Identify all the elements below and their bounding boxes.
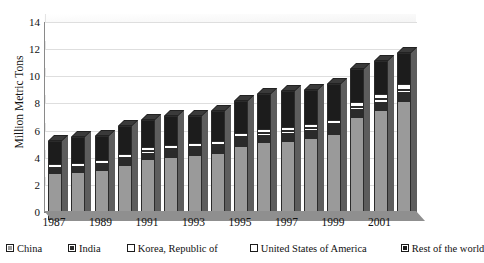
legend-item-row[interactable]: Rest of the world <box>401 243 484 254</box>
segment-india-1990 <box>118 160 132 166</box>
segment-korea-1995 <box>234 137 248 139</box>
segment-row-1989 <box>95 136 109 160</box>
bar-1991[interactable] <box>141 120 155 220</box>
segment-usa-1992 <box>164 145 178 149</box>
segment-china-1999 <box>327 135 341 221</box>
bar-2002[interactable] <box>397 53 411 220</box>
x-axis-tick-labels: 19871989199119931995199719992001 <box>44 214 436 230</box>
bar-1989[interactable] <box>95 136 109 220</box>
segment-korea-2001 <box>374 99 388 102</box>
segment-korea-1999 <box>327 124 341 127</box>
segment-korea-2002 <box>397 90 411 93</box>
segment-usa-2001 <box>374 94 388 99</box>
bar-1994[interactable] <box>211 111 225 220</box>
bar-2001[interactable] <box>374 61 388 220</box>
segment-usa-1996 <box>257 129 271 133</box>
legend-swatch-korea <box>127 244 135 252</box>
bar-side-1987 <box>62 135 68 217</box>
segment-china-1997 <box>281 142 295 220</box>
bar-1987[interactable] <box>48 141 62 220</box>
segment-row-1996 <box>257 94 271 129</box>
legend-item-usa[interactable]: United States of America <box>250 243 367 254</box>
segment-china-1993 <box>188 156 202 220</box>
x-tick-1991: 1991 <box>127 214 167 230</box>
segment-usa-1998 <box>304 124 318 128</box>
segment-india-1993 <box>188 149 202 156</box>
segment-india-1997 <box>281 134 295 142</box>
segment-row-1997 <box>281 91 295 127</box>
segment-usa-1993 <box>188 143 202 147</box>
bar-side-2001 <box>388 55 394 217</box>
y-tick-8: 8 <box>35 98 41 109</box>
y-axis-tick-labels: 02468101214 <box>0 14 40 220</box>
bar-side-1989 <box>109 130 115 217</box>
segment-usa-1997 <box>281 127 295 131</box>
bar-side-1990 <box>132 120 138 217</box>
legend-label-india: India <box>79 243 101 254</box>
bar-1999[interactable] <box>327 84 341 220</box>
segment-row-1993 <box>188 116 202 142</box>
segment-usa-1991 <box>141 147 155 151</box>
legend-label-korea: Korea, Republic of <box>138 243 218 254</box>
segment-row-1995 <box>234 101 248 133</box>
segment-row-1992 <box>164 116 178 145</box>
segment-india-1989 <box>95 166 109 171</box>
segment-india-1991 <box>141 154 155 161</box>
bar-1998[interactable] <box>304 90 318 220</box>
x-tick-2001: 2001 <box>360 214 400 230</box>
bar-1988[interactable] <box>71 137 85 220</box>
plot-area <box>44 14 424 212</box>
bar-1990[interactable] <box>118 126 132 220</box>
segment-row-1998 <box>304 90 318 125</box>
y-tick-2: 2 <box>35 180 41 191</box>
bar-1992[interactable] <box>164 116 178 220</box>
y-tick-6: 6 <box>35 126 41 137</box>
segment-usa-1994 <box>211 141 225 145</box>
bar-side-1994 <box>225 105 231 217</box>
segment-china-1996 <box>257 143 271 220</box>
segment-korea-1996 <box>257 133 271 136</box>
segment-india-1995 <box>234 139 248 146</box>
segment-usa-2002 <box>397 84 411 89</box>
segment-usa-1995 <box>234 133 248 137</box>
segment-row-2000 <box>350 69 364 102</box>
segment-row-1990 <box>118 126 132 154</box>
x-tick-1997: 1997 <box>267 214 307 230</box>
segment-india-1998 <box>304 131 318 139</box>
segment-usa-2000 <box>350 102 364 107</box>
bar-side-1992 <box>178 110 184 217</box>
segment-korea-1993 <box>188 147 202 149</box>
segment-korea-1994 <box>211 145 225 147</box>
bar-side-1997 <box>295 85 301 217</box>
bar-1996[interactable] <box>257 94 271 220</box>
segment-usa-1999 <box>327 120 341 124</box>
segment-india-2001 <box>374 103 388 112</box>
legend-item-korea[interactable]: Korea, Republic of <box>127 243 218 254</box>
bar-side-1996 <box>271 88 277 217</box>
bar-side-1995 <box>248 95 254 217</box>
segment-india-1994 <box>211 147 225 154</box>
legend-swatch-china <box>6 244 14 252</box>
segment-row-2002 <box>397 53 411 84</box>
y-tick-4: 4 <box>35 153 41 164</box>
segment-row-1988 <box>71 137 85 163</box>
bar-1997[interactable] <box>281 91 295 220</box>
bar-side-2002 <box>411 47 417 217</box>
legend: ChinaIndiaKorea, Republic ofUnited State… <box>6 240 442 256</box>
segment-china-2002 <box>397 102 411 220</box>
legend-label-usa: United States of America <box>261 243 367 254</box>
bar-1995[interactable] <box>234 101 248 220</box>
bar-1993[interactable] <box>188 116 202 220</box>
segment-korea-1997 <box>281 131 295 134</box>
segment-china-2001 <box>374 111 388 220</box>
segment-korea-1998 <box>304 128 318 131</box>
segment-china-1995 <box>234 147 248 220</box>
bar-2000[interactable] <box>350 69 364 220</box>
legend-item-india[interactable]: India <box>68 243 101 254</box>
legend-item-china[interactable]: China <box>6 243 42 254</box>
x-tick-1999: 1999 <box>313 214 353 230</box>
segment-china-1994 <box>211 154 225 221</box>
bar-side-1991 <box>155 114 161 217</box>
segment-india-2000 <box>350 110 364 118</box>
